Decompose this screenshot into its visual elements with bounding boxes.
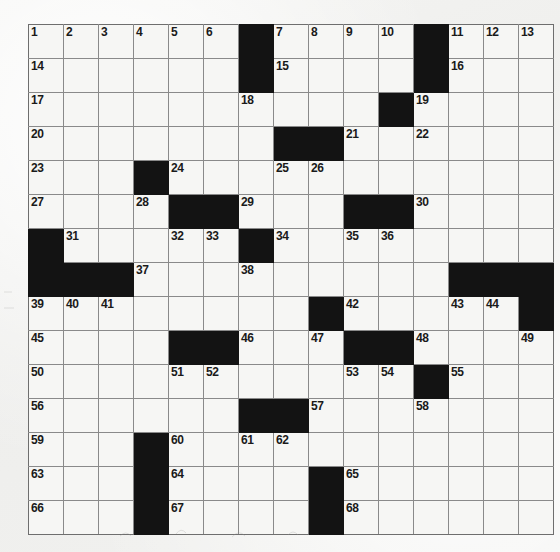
crossword-cell[interactable] bbox=[169, 59, 204, 93]
crossword-cell[interactable] bbox=[379, 399, 414, 433]
crossword-cell[interactable] bbox=[484, 229, 519, 263]
crossword-cell[interactable] bbox=[379, 297, 414, 331]
crossword-cell[interactable]: 51 bbox=[169, 365, 204, 399]
crossword-cell[interactable]: 7 bbox=[274, 25, 309, 59]
crossword-cell[interactable] bbox=[204, 399, 239, 433]
crossword-cell[interactable] bbox=[449, 229, 484, 263]
crossword-cell[interactable]: 41 bbox=[99, 297, 134, 331]
crossword-cell[interactable] bbox=[64, 433, 99, 467]
crossword-cell[interactable]: 33 bbox=[204, 229, 239, 263]
crossword-cell[interactable] bbox=[274, 501, 309, 535]
crossword-cell[interactable] bbox=[519, 93, 554, 127]
crossword-cell[interactable]: 36 bbox=[379, 229, 414, 263]
crossword-cell[interactable]: 42 bbox=[344, 297, 379, 331]
crossword-cell[interactable]: 28 bbox=[134, 195, 169, 229]
crossword-cell[interactable] bbox=[204, 433, 239, 467]
crossword-cell[interactable] bbox=[519, 399, 554, 433]
crossword-cell[interactable] bbox=[449, 501, 484, 535]
crossword-cell[interactable]: 40 bbox=[64, 297, 99, 331]
crossword-cell[interactable]: 4 bbox=[134, 25, 169, 59]
crossword-cell[interactable]: 29 bbox=[239, 195, 274, 229]
crossword-cell[interactable] bbox=[344, 433, 379, 467]
crossword-cell[interactable]: 8 bbox=[309, 25, 344, 59]
crossword-cell[interactable] bbox=[519, 365, 554, 399]
crossword-cell[interactable] bbox=[519, 195, 554, 229]
crossword-cell[interactable] bbox=[274, 263, 309, 297]
crossword-cell[interactable] bbox=[519, 467, 554, 501]
crossword-cell[interactable] bbox=[519, 127, 554, 161]
crossword-cell[interactable] bbox=[484, 501, 519, 535]
crossword-cell[interactable]: 21 bbox=[344, 127, 379, 161]
crossword-cell[interactable] bbox=[379, 59, 414, 93]
crossword-cell[interactable]: 58 bbox=[414, 399, 449, 433]
crossword-cell[interactable]: 63 bbox=[29, 467, 64, 501]
crossword-cell[interactable] bbox=[379, 161, 414, 195]
crossword-cell[interactable]: 2 bbox=[64, 25, 99, 59]
crossword-cell[interactable] bbox=[449, 161, 484, 195]
crossword-cell[interactable]: 30 bbox=[414, 195, 449, 229]
crossword-cell[interactable] bbox=[239, 365, 274, 399]
crossword-cell[interactable] bbox=[239, 297, 274, 331]
crossword-cell[interactable] bbox=[484, 399, 519, 433]
crossword-cell[interactable]: 38 bbox=[239, 263, 274, 297]
crossword-cell[interactable]: 57 bbox=[309, 399, 344, 433]
crossword-cell[interactable] bbox=[449, 467, 484, 501]
crossword-cell[interactable] bbox=[344, 263, 379, 297]
crossword-cell[interactable]: 31 bbox=[64, 229, 99, 263]
crossword-cell[interactable] bbox=[204, 127, 239, 161]
crossword-cell[interactable] bbox=[99, 195, 134, 229]
crossword-cell[interactable]: 50 bbox=[29, 365, 64, 399]
crossword-cell[interactable] bbox=[169, 399, 204, 433]
crossword-cell[interactable] bbox=[169, 127, 204, 161]
crossword-cell[interactable]: 39 bbox=[29, 297, 64, 331]
crossword-cell[interactable] bbox=[484, 331, 519, 365]
crossword-cell[interactable]: 37 bbox=[134, 263, 169, 297]
crossword-cell[interactable] bbox=[484, 59, 519, 93]
crossword-cell[interactable]: 18 bbox=[239, 93, 274, 127]
crossword-cell[interactable] bbox=[169, 93, 204, 127]
crossword-cell[interactable]: 19 bbox=[414, 93, 449, 127]
crossword-cell[interactable] bbox=[134, 93, 169, 127]
crossword-cell[interactable]: 44 bbox=[484, 297, 519, 331]
crossword-cell[interactable]: 16 bbox=[449, 59, 484, 93]
crossword-cell[interactable]: 64 bbox=[169, 467, 204, 501]
crossword-cell[interactable]: 13 bbox=[519, 25, 554, 59]
crossword-cell[interactable] bbox=[414, 433, 449, 467]
crossword-cell[interactable] bbox=[99, 59, 134, 93]
crossword-cell[interactable]: 67 bbox=[169, 501, 204, 535]
crossword-cell[interactable] bbox=[204, 467, 239, 501]
crossword-cell[interactable]: 53 bbox=[344, 365, 379, 399]
crossword-cell[interactable]: 6 bbox=[204, 25, 239, 59]
crossword-cell[interactable] bbox=[204, 161, 239, 195]
crossword-cell[interactable] bbox=[344, 59, 379, 93]
crossword-cell[interactable] bbox=[449, 195, 484, 229]
crossword-cell[interactable] bbox=[309, 195, 344, 229]
crossword-cell[interactable] bbox=[204, 59, 239, 93]
crossword-cell[interactable] bbox=[309, 229, 344, 263]
crossword-cell[interactable] bbox=[484, 433, 519, 467]
crossword-cell[interactable] bbox=[64, 399, 99, 433]
crossword-cell[interactable] bbox=[379, 127, 414, 161]
crossword-cell[interactable] bbox=[64, 467, 99, 501]
crossword-cell[interactable] bbox=[204, 297, 239, 331]
crossword-cell[interactable] bbox=[484, 467, 519, 501]
crossword-cell[interactable] bbox=[64, 161, 99, 195]
crossword-cell[interactable] bbox=[519, 229, 554, 263]
crossword-cell[interactable]: 65 bbox=[344, 467, 379, 501]
crossword-cell[interactable]: 25 bbox=[274, 161, 309, 195]
crossword-cell[interactable] bbox=[134, 127, 169, 161]
crossword-cell[interactable]: 12 bbox=[484, 25, 519, 59]
crossword-cell[interactable]: 20 bbox=[29, 127, 64, 161]
crossword-cell[interactable] bbox=[239, 161, 274, 195]
crossword-cell[interactable] bbox=[379, 501, 414, 535]
crossword-cell[interactable]: 47 bbox=[309, 331, 344, 365]
crossword-cell[interactable] bbox=[169, 297, 204, 331]
crossword-cell[interactable] bbox=[379, 433, 414, 467]
crossword-cell[interactable] bbox=[449, 127, 484, 161]
crossword-cell[interactable] bbox=[449, 399, 484, 433]
crossword-cell[interactable] bbox=[134, 365, 169, 399]
crossword-cell[interactable] bbox=[414, 297, 449, 331]
crossword-cell[interactable] bbox=[204, 501, 239, 535]
crossword-cell[interactable]: 66 bbox=[29, 501, 64, 535]
crossword-cell[interactable]: 46 bbox=[239, 331, 274, 365]
